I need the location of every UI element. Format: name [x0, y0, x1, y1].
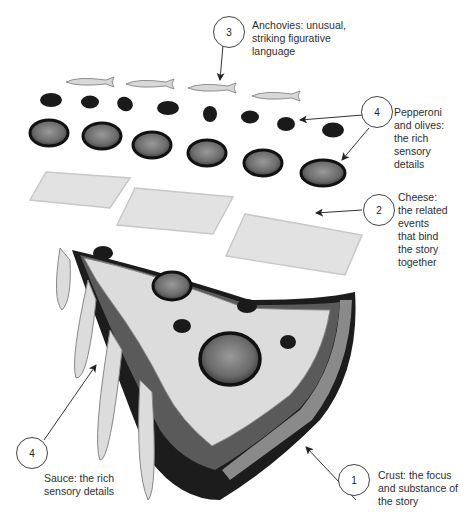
callout-label-crust: Crust: the focus and substance of the st…: [378, 469, 458, 508]
pepperoni-icon: [153, 272, 191, 300]
callout-label-cheese: Cheese: the related events that bind the…: [398, 191, 448, 269]
anchovy-icon: [252, 91, 300, 101]
olive-icon: [277, 117, 295, 131]
callout-number-anchovies: 3: [213, 16, 245, 48]
callout-number-pepperoni: 4: [361, 96, 393, 128]
anchovy-icon: [188, 83, 236, 93]
olive-icon: [237, 299, 257, 313]
pepperoni-icon: [200, 333, 260, 385]
callout-number-sauce: 4: [16, 437, 48, 469]
cheese-slice: [117, 188, 233, 234]
anchovy-icon: [126, 79, 174, 89]
olive-icon: [322, 123, 344, 138]
callout-number-cheese: 2: [363, 194, 395, 226]
callout-label-sauce: Sauce: the rich sensory details: [44, 472, 114, 498]
olive-icon: [241, 111, 259, 124]
callout-label-pepperoni: Pepperoni and olives: the rich sensory d…: [394, 106, 444, 171]
pizza-slice: [56, 246, 355, 500]
pepperoni-icon: [188, 140, 226, 166]
olive-icon: [203, 106, 217, 122]
anchovies-layer: [66, 77, 300, 101]
olive-icon: [280, 335, 296, 349]
pepperoni-icon: [244, 150, 282, 176]
olive-icon: [157, 101, 179, 115]
pepperoni-icon: [301, 160, 345, 186]
pepperoni-icon: [30, 120, 68, 146]
anchovy-icon: [66, 77, 114, 87]
pepperoni-icon: [133, 132, 171, 158]
olive-icon: [115, 94, 135, 113]
olive-icon: [93, 246, 113, 260]
pepperoni-icon: [83, 123, 121, 149]
olive-icon: [173, 319, 191, 333]
callout-number-crust: 1: [338, 464, 370, 496]
olive-icon: [81, 96, 99, 109]
cheese-slice: [226, 214, 362, 275]
callout-label-anchovies: Anchovies: unusual, striking figurative …: [252, 19, 346, 58]
cheese-slice: [30, 172, 130, 208]
olive-icon: [40, 93, 62, 107]
